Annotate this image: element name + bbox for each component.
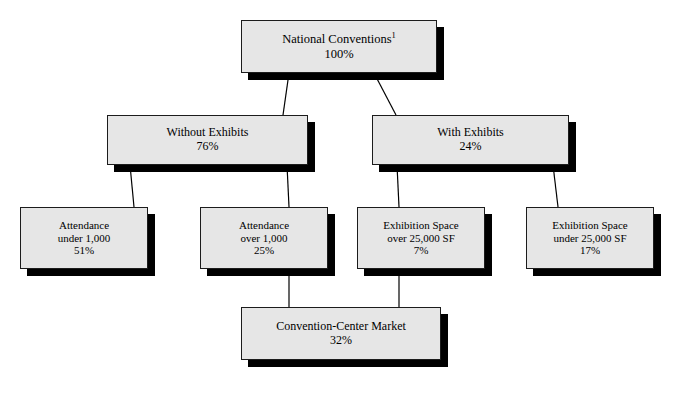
node-label-line: over 25,000 SF	[387, 232, 455, 245]
node-label-line: Exhibition Space	[552, 219, 627, 232]
node-with-exhibits[interactable]: With Exhibits24%	[372, 115, 569, 165]
connector-national-to-without	[283, 73, 289, 115]
node-national-conventions[interactable]: National Conventions1100%	[241, 20, 437, 73]
node-label-line: under 25,000 SF	[553, 232, 626, 245]
footnote-marker: 1	[392, 30, 396, 40]
node-exhibition-space-under-25000[interactable]: Exhibition Spaceunder 25,000 SF17%	[526, 207, 654, 269]
node-label-line: under 1,000	[58, 232, 111, 245]
node-value: 17%	[580, 244, 600, 257]
node-exhibition-space-over-25000[interactable]: Exhibition Spaceover 25,000 SF7%	[357, 207, 485, 269]
node-value: 51%	[74, 244, 94, 257]
node-value: 25%	[254, 244, 274, 257]
node-value: 32%	[330, 334, 352, 348]
node-label-line: With Exhibits	[437, 126, 504, 140]
connector-without-to-attendance-under	[130, 165, 134, 207]
node-value: 7%	[414, 244, 429, 257]
connector-without-to-attendance-over	[287, 165, 289, 207]
node-label-line: Attendance	[59, 219, 109, 232]
node-attendance-under-1000[interactable]: Attendanceunder 1,00051%	[20, 207, 148, 269]
node-attendance-over-1000[interactable]: Attendanceover 1,00025%	[200, 207, 328, 269]
connector-national-to-with	[374, 73, 396, 115]
org-chart-diagram: National Conventions1100%Without Exhibit…	[0, 0, 678, 393]
node-without-exhibits[interactable]: Without Exhibits76%	[107, 115, 308, 165]
node-label-line: Exhibition Space	[383, 219, 458, 232]
node-convention-center-market[interactable]: Convention-Center Market32%	[241, 307, 441, 360]
node-value: 76%	[197, 140, 219, 154]
node-label-line: over 1,000	[240, 232, 287, 245]
node-value: 100%	[324, 47, 353, 62]
connector-with-to-exhibition-under	[553, 165, 558, 207]
connector-with-to-exhibition-over	[397, 165, 399, 207]
node-label-line: Attendance	[239, 219, 289, 232]
node-label-line: Without Exhibits	[167, 126, 249, 140]
node-value: 24%	[460, 140, 482, 154]
node-label-line: Convention-Center Market	[276, 320, 406, 334]
node-label-line: National Conventions1	[282, 32, 396, 47]
